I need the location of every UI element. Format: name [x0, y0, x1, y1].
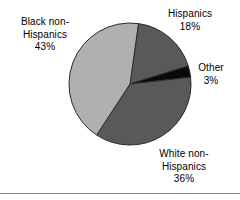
pie-svg	[68, 22, 192, 146]
pie-chart-graphic	[68, 22, 192, 146]
slice-label-line1: Black non-	[6, 16, 84, 29]
slice-label-white-non-hispanics: White non- Hispanics 36%	[136, 148, 232, 186]
slice-label-percent: 3%	[186, 75, 236, 88]
slice-label-line1: Other	[186, 62, 236, 75]
slice-label-line2: Hispanics	[6, 29, 84, 42]
slice-label-percent: 43%	[6, 41, 84, 54]
slice-label-other: Other 3%	[186, 62, 236, 87]
slice-label-line1: Hispanics	[152, 8, 228, 21]
figure-bottom-rule	[0, 193, 240, 194]
slice-label-line1: White non-	[136, 148, 232, 161]
slice-label-percent: 18%	[152, 21, 228, 34]
slice-label-hispanics: Hispanics 18%	[152, 8, 228, 33]
slice-label-line2: Hispanics	[136, 161, 232, 174]
slice-label-black-non-hispanics: Black non- Hispanics 43%	[6, 16, 84, 54]
pie-chart-figure: Black non- Hispanics 43% Hispanics 18% O…	[0, 0, 240, 200]
slice-label-percent: 36%	[136, 173, 232, 186]
pie-slice-group	[69, 23, 191, 145]
